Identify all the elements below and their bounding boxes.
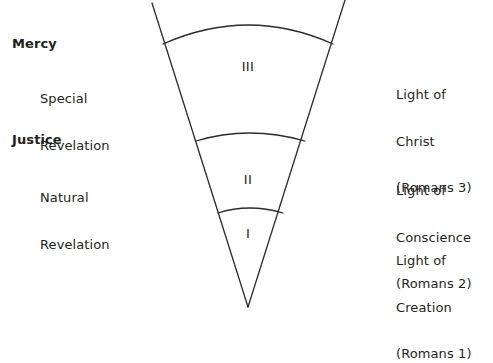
label-light-of-christ-line1: Light of bbox=[396, 87, 472, 103]
label-justice-heading: Justice bbox=[12, 132, 62, 148]
label-light-of-christ-line2: Christ bbox=[396, 134, 472, 150]
label-light-of-creation: Light of Creation (Romans 1) bbox=[396, 222, 472, 363]
label-light-of-creation-line3: (Romans 1) bbox=[396, 346, 472, 362]
label-mercy-heading: Mercy bbox=[12, 36, 57, 52]
cone-section-numeral-iii: III bbox=[218, 60, 278, 73]
label-natural-revelation-line2: Revelation bbox=[40, 237, 110, 253]
label-natural-revelation-line1: Natural bbox=[40, 190, 110, 206]
cone-arc-middle bbox=[196, 133, 305, 141]
label-light-of-creation-line1: Light of bbox=[396, 253, 472, 269]
label-natural-revelation: Natural Revelation bbox=[40, 159, 110, 283]
cone-left-edge bbox=[152, 3, 248, 307]
label-light-of-conscience-line1: Light of bbox=[396, 183, 472, 199]
cone-arc-outer bbox=[163, 25, 333, 44]
cone-right-edge bbox=[248, 0, 345, 307]
cone-section-numeral-ii: II bbox=[218, 173, 278, 186]
label-light-of-creation-line2: Creation bbox=[396, 300, 472, 316]
cone-section-numeral-i: I bbox=[218, 227, 278, 240]
cone-arc-inner bbox=[218, 208, 283, 213]
label-special-revelation-line1: Special bbox=[40, 91, 110, 107]
